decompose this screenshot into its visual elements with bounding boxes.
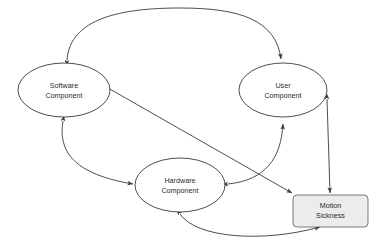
edge-hardware-user-curve[interactable]: [228, 124, 283, 184]
user-component-label-line1: User: [275, 81, 291, 90]
hardware-component-label-line1: Hardware: [164, 176, 195, 185]
edge-software-user-arc[interactable]: [67, 8, 281, 60]
edge-software-hardware-curve[interactable]: [62, 121, 133, 184]
software-component-label-line2: Component: [45, 91, 82, 100]
diagram-canvas: Software Component User Component Hardwa…: [0, 0, 385, 246]
node-user-component[interactable]: User Component: [239, 63, 327, 117]
node-motion-sickness[interactable]: Motion Sickness: [293, 195, 368, 227]
edge-user-motion-sickness-vertical[interactable]: [327, 99, 330, 193]
diagram-svg: Software Component User Component Hardwa…: [0, 0, 385, 246]
node-software-component[interactable]: Software Component: [18, 63, 110, 117]
user-component-label-line2: Component: [264, 91, 301, 100]
motion-sickness-label-line1: Motion: [320, 201, 342, 210]
software-component-label-line1: Software: [50, 81, 78, 90]
motion-sickness-label-line2: Sickness: [316, 211, 345, 220]
hardware-component-label-line2: Component: [161, 186, 198, 195]
node-hardware-component[interactable]: Hardware Component: [135, 158, 225, 212]
